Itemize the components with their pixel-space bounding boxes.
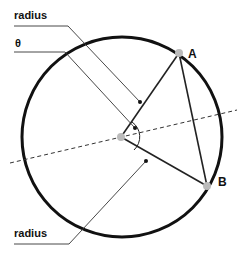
leader-dot-theta: [133, 126, 137, 130]
label-radius-bottom: radius: [14, 228, 47, 239]
point-a-marker: [175, 49, 183, 57]
label-point-a: A: [188, 48, 197, 60]
radius-to-b: [121, 137, 207, 186]
label-point-b: B: [218, 176, 227, 188]
point-b-marker: [203, 182, 211, 190]
label-theta: θ: [15, 38, 21, 49]
geometry-diagram: [0, 0, 248, 256]
leader-dot-radius-bottom: [144, 159, 148, 163]
center-point: [117, 133, 125, 141]
chord-ab: [179, 53, 207, 186]
leader-dot-radius-top: [138, 100, 142, 104]
label-radius-top: radius: [14, 10, 47, 21]
radius-to-a: [121, 53, 179, 137]
